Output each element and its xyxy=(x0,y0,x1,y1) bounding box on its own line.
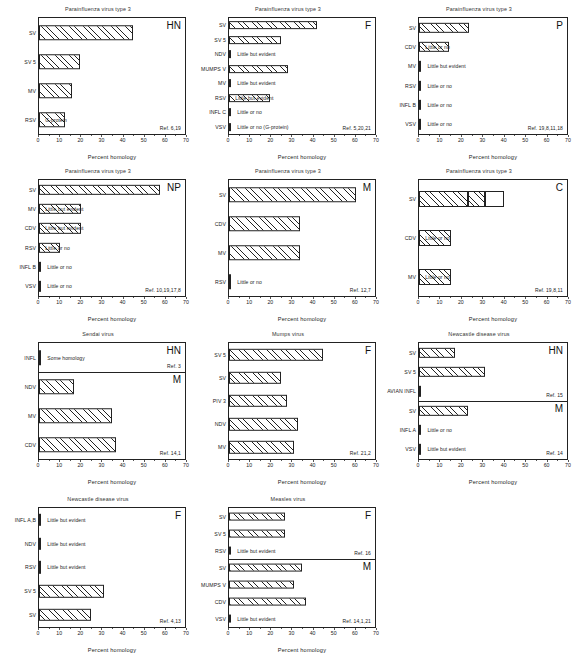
axis-tick-label: 20 xyxy=(77,462,83,468)
chart-row: NDVLittle but evident xyxy=(229,47,375,62)
axis-minor-tick xyxy=(281,297,282,298)
bar xyxy=(419,269,451,285)
bar-zero xyxy=(419,425,421,435)
x-axis: 010203040506070 xyxy=(228,460,376,474)
category-label: MUMPS V xyxy=(201,582,226,588)
bar-annotation: Little but evident xyxy=(47,564,85,570)
bar-zero xyxy=(419,386,421,396)
axis-tick-label: 70 xyxy=(183,137,189,143)
x-axis-label: Percent homology xyxy=(418,154,568,160)
axis-minor-tick xyxy=(557,135,558,136)
bar xyxy=(229,372,281,384)
chart-row: NDVLittle but evident xyxy=(39,532,185,556)
axis-tick-label: 30 xyxy=(99,137,105,143)
reference-citation: Ref. 12,7 xyxy=(350,287,371,293)
gene-label: F xyxy=(175,511,181,521)
bar xyxy=(229,597,306,606)
chart-row: MV xyxy=(229,238,375,267)
bar xyxy=(229,36,281,44)
category-label: INFL xyxy=(24,355,36,361)
reference-citation: Ref. 3 xyxy=(167,363,181,369)
gene-label: F xyxy=(365,346,371,356)
chart-row: NDV xyxy=(39,372,185,401)
chart-panel-piv3-c: Parainfluenza virus type 3SVCDVLittle or… xyxy=(384,168,574,323)
bar-segment xyxy=(468,191,485,207)
x-axis: 010203040506070 xyxy=(418,460,568,474)
chart-panel-ndv-hn-m: Newcastle disease virusSVSV 5AVIAN INFLH… xyxy=(384,331,574,486)
axis-minor-tick xyxy=(154,460,155,461)
category-label: MUMPS V xyxy=(201,66,226,72)
category-label: INFL B xyxy=(399,102,416,108)
bar-annotation: Little but evident xyxy=(237,548,275,554)
x-axis-label: Percent homology xyxy=(228,154,376,160)
chart-row: MV xyxy=(39,401,185,430)
category-label: RSV xyxy=(215,548,226,554)
reference-citation: Ref. 16 xyxy=(354,550,371,556)
chart-panel-measles: Measles virusSVSV 5RSVLittle but evident… xyxy=(194,496,382,654)
chart-row: INFL A,BLittle but evident xyxy=(39,508,185,532)
gene-label: M xyxy=(555,404,563,414)
x-axis: 010203040506070 xyxy=(38,135,186,149)
bar-annotation: Little or no xyxy=(427,102,452,108)
gene-label: HN xyxy=(167,21,181,31)
bar-zero xyxy=(39,281,41,291)
axis-minor-tick xyxy=(493,297,494,298)
chart-row: SV xyxy=(419,180,567,219)
axis-tick-label: 50 xyxy=(331,137,337,143)
panel-title: Parainfluenza virus type 3 xyxy=(384,6,574,12)
x-axis: 010203040506070 xyxy=(418,135,568,149)
bar-zero xyxy=(419,80,421,90)
chart-row: PIV 3 xyxy=(229,389,375,412)
axis-minor-tick xyxy=(260,297,261,298)
axis-tick-label: 0 xyxy=(37,299,40,305)
category-label: SV xyxy=(29,30,36,36)
x-axis-label: Percent homology xyxy=(228,316,376,322)
category-label: SV 5 xyxy=(404,369,416,375)
category-label: AVIAN INFL xyxy=(387,388,416,394)
axis-minor-tick xyxy=(133,297,134,298)
panel-title: Newcastle disease virus xyxy=(4,496,192,502)
bar xyxy=(229,348,323,360)
bar-annotation: Little or no xyxy=(237,279,262,285)
chart-row: SV xyxy=(419,18,567,37)
axis-tick-label: 20 xyxy=(77,630,83,636)
chart-row: MV xyxy=(39,76,185,105)
axis-tick-label: 20 xyxy=(77,137,83,143)
axis-tick-label: 70 xyxy=(183,462,189,468)
chart-row: RSVLittle or no xyxy=(419,76,567,95)
chart-row: MUMPS V xyxy=(229,576,375,593)
chart-row: SV xyxy=(229,508,375,525)
reference-citation: Ref. 10,19,17,8 xyxy=(145,287,181,293)
axis-tick-label: 50 xyxy=(141,630,147,636)
category-label: SV xyxy=(409,350,416,356)
bar-annotation: Little or no xyxy=(427,83,452,89)
axis-minor-tick xyxy=(344,135,345,136)
x-axis-label: Percent homology xyxy=(228,647,376,653)
axis-minor-tick xyxy=(70,297,71,298)
x-axis: 010203040506070 xyxy=(38,628,186,642)
bar xyxy=(39,242,60,252)
axis-tick-label: 70 xyxy=(183,299,189,305)
panel-title: Newcastle disease virus xyxy=(384,331,574,337)
axis-minor-tick xyxy=(365,460,366,461)
axis-tick-label: 70 xyxy=(373,137,379,143)
category-label: SV 5 xyxy=(214,37,226,43)
chart-panel-sendai: Sendai virusINFLSome homologyHNRef. 3NDV… xyxy=(4,331,192,486)
axis-tick-label: 0 xyxy=(227,630,230,636)
chart-row: INFLSome homology xyxy=(39,343,185,372)
x-axis: 010203040506070 xyxy=(228,297,376,311)
chart-panel-mumps-f: Mumps virusSV 5SVPIV 3NDVMVFRef. 21,2010… xyxy=(194,331,382,486)
chart-row: INFL BLittle or no xyxy=(39,257,185,276)
panel-title: Parainfluenza virus type 3 xyxy=(4,168,192,174)
axis-minor-tick xyxy=(365,628,366,629)
panel-title: Parainfluenza virus type 3 xyxy=(4,6,192,12)
chart-row: SV 5 xyxy=(39,579,185,603)
category-label: RSV xyxy=(25,117,36,123)
chart-panel-ndv-f: Newcastle disease virusINFL A,BLittle bu… xyxy=(4,496,192,654)
bar-zero xyxy=(229,274,231,290)
x-axis-label: Percent homology xyxy=(228,479,376,485)
x-axis: 010203040506070 xyxy=(228,628,376,642)
bar xyxy=(39,379,74,395)
axis-tick-label: 30 xyxy=(289,630,295,636)
x-axis: 010203040506070 xyxy=(228,135,376,149)
